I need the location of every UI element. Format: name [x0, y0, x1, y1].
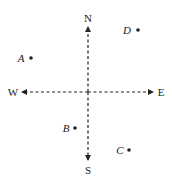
point-b: B [63, 122, 77, 134]
direction-labels: NSWE [8, 12, 165, 176]
south-label: S [85, 164, 91, 176]
point-label: C [116, 144, 124, 156]
compass-axes [22, 27, 153, 160]
point-d: D [122, 24, 140, 36]
west-label: W [8, 86, 19, 98]
point-c: C [116, 144, 130, 156]
point-dot-icon [136, 28, 140, 32]
points: ABCD [17, 24, 140, 156]
east-label: E [158, 86, 165, 98]
point-label: D [122, 24, 131, 36]
point-dot-icon [127, 148, 131, 152]
compass-diagram: NSWE ABCD [0, 0, 172, 184]
point-label: A [17, 52, 25, 64]
point-label: B [63, 122, 70, 134]
point-dot-icon [73, 126, 77, 130]
point-dot-icon [29, 56, 33, 60]
north-label: N [84, 12, 92, 24]
point-a: A [17, 52, 33, 64]
